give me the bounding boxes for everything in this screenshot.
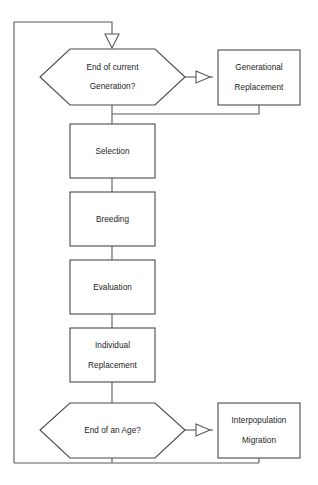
- node-evaluation[interactable]: Evaluation: [70, 260, 155, 314]
- interpopulation-migration-label-line1: Interpopulation: [232, 416, 287, 425]
- node-end-of-an-age[interactable]: End of an Age?: [40, 403, 185, 458]
- end-of-current-generation-hexagon-shape: [40, 49, 185, 105]
- generational-replacement-label-line2: Replacement: [235, 83, 284, 92]
- interpopulation-migration-label-line2: Migration: [242, 436, 277, 445]
- generational-replacement-label-line1: Generational: [235, 63, 283, 72]
- node-individual-replacement[interactable]: Individual Replacement: [70, 328, 155, 382]
- end-of-current-generation-label-line1: End of current: [86, 63, 139, 72]
- breeding-label: Breeding: [96, 215, 130, 224]
- individual-replacement-box-shape: [70, 328, 155, 382]
- node-breeding[interactable]: Breeding: [70, 192, 155, 246]
- end-of-current-generation-label-line2: Generation?: [90, 82, 136, 91]
- arrowhead-into-interpopulation-migration: [196, 424, 210, 436]
- node-generational-replacement[interactable]: Generational Replacement: [218, 50, 300, 105]
- node-selection[interactable]: Selection: [70, 124, 155, 178]
- arrowhead-into-generational-replacement: [196, 71, 210, 83]
- flowchart-canvas: End of current Generation? Generational …: [0, 0, 318, 485]
- end-of-an-age-label: End of an Age?: [84, 426, 141, 435]
- arrowhead-into-generation-decision: [105, 34, 119, 48]
- flowchart-diagram: End of current Generation? Generational …: [0, 0, 318, 485]
- interpopulation-migration-box-shape: [218, 403, 300, 458]
- generational-replacement-box-shape: [218, 50, 300, 105]
- edge-generational-replacement-return: [112, 105, 259, 114]
- individual-replacement-label-line2: Replacement: [88, 361, 137, 370]
- selection-label: Selection: [95, 147, 130, 156]
- evaluation-label: Evaluation: [93, 283, 132, 292]
- individual-replacement-label-line1: Individual: [95, 341, 130, 350]
- node-interpopulation-migration[interactable]: Interpopulation Migration: [218, 403, 300, 458]
- node-end-of-current-generation[interactable]: End of current Generation?: [40, 49, 185, 105]
